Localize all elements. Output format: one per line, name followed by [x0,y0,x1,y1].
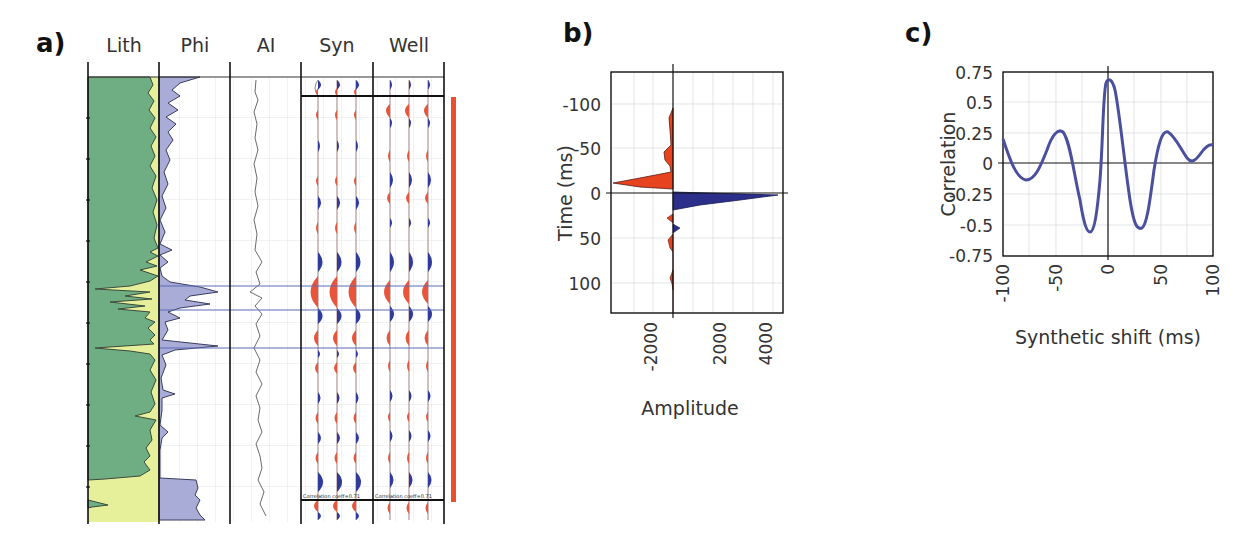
c-xtick: 0 [1098,264,1118,275]
c-xtick: 100 [1203,264,1223,296]
wavelet-negative-lobe [613,108,673,189]
b-ylabel: Time (ms) [554,145,576,242]
c-xtick: 50 [1151,264,1171,286]
panel-b-wavelet: -100 -50 0 50 100 -2000 2000 4000 Time (… [554,64,788,419]
b-xtick: 2000 [710,322,730,365]
c-ytick: 0.75 [955,63,993,83]
c-ytick: 0.5 [966,93,993,113]
c-ytick: -0.75 [949,246,993,266]
b-xtick: -2000 [641,322,661,371]
c-ytick: -0.5 [960,216,993,236]
b-ytick: -100 [562,95,601,115]
panel-c-correlation: 0.75 0.5 0.25 0 -0.25 -0.5 -0.75 -100 -5… [937,63,1223,348]
figure-canvas: Correlation coeff=0.71 Correlation coeff… [0,0,1245,547]
b-xlabel: Amplitude [641,397,738,419]
b-ytick: 0 [590,184,601,204]
c-ylabel: Correlation [937,112,959,217]
well-correlation-text: Correlation coeff=0.71 [375,493,432,499]
b-ytick: 100 [569,274,601,294]
wavelet-positive-lobe [673,192,778,210]
b-ytick: -50 [573,139,601,159]
panel-a-well-log: Correlation coeff=0.71 Correlation coeff… [86,62,456,524]
c-xlabel: Synthetic shift (ms) [1015,326,1201,348]
lith-track [88,77,159,522]
c-ytick: 0 [982,154,993,174]
syn-correlation-text: Correlation coeff=0.71 [303,493,360,499]
b-xtick: 4000 [756,322,776,365]
correlation-window-bar [451,97,456,502]
c-ytick: 0.25 [955,124,993,144]
c-xtick: -100 [993,264,1013,303]
b-ytick: 50 [579,229,601,249]
c-xtick: -50 [1046,264,1066,292]
